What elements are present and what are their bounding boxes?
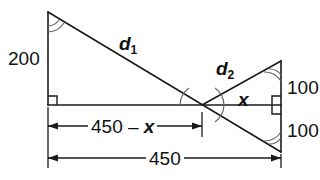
right-angle-marker-bottom-left [48, 96, 57, 105]
label-dimension-partial-variable: x [144, 116, 155, 137]
geometry-figure: 200 d1 d2 x 100 100 450 – x 450 [0, 0, 320, 180]
angle-arc-top-left-outer [48, 23, 64, 32]
dimension-arrow-total-right [271, 155, 281, 162]
angle-arc-top-right-outer [264, 72, 281, 81]
label-hypotenuse-d2-subscript: 2 [228, 68, 235, 82]
dimension-arrow-partial-right [192, 123, 202, 130]
label-hypotenuse-d1: d1 [119, 34, 137, 53]
dimension-arrow-partial-left [48, 123, 58, 130]
angle-arc-top-right-inner [269, 69, 281, 75]
label-dimension-total: 450 [146, 149, 184, 168]
label-dimension-partial-prefix: 450 – [91, 116, 144, 137]
label-hypotenuse-d2: d2 [216, 59, 234, 78]
label-left-height: 200 [8, 49, 40, 68]
label-hypotenuse-d2-base: d [216, 58, 228, 79]
label-angle-x: x [238, 90, 249, 109]
angle-arc-bottom-right-outer [264, 132, 281, 141]
label-dimension-partial: 450 – x [88, 117, 157, 136]
angle-arc-top-left-inner [48, 20, 59, 26]
label-hypotenuse-d1-subscript: 1 [131, 43, 138, 57]
label-right-height-bottom: 100 [287, 121, 319, 140]
dimension-arrow-total-left [48, 155, 58, 162]
hypotenuse-d1-line [48, 12, 281, 152]
label-right-height-top: 100 [287, 78, 319, 97]
label-hypotenuse-d1-base: d [119, 33, 131, 54]
angle-arc-bottom-right-inner [269, 138, 281, 144]
